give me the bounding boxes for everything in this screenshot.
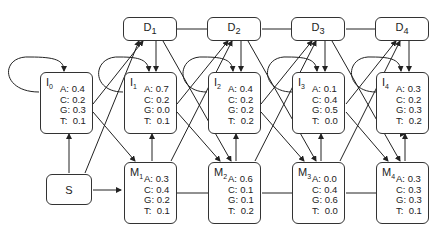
- start-state: S: [46, 174, 92, 205]
- emission-probs: A: 0.3 C: 0.4 G: 0.2 T: 0.1: [144, 174, 170, 216]
- state-label: D1: [143, 21, 156, 36]
- insert-state-i2: I2 A: 0.4 C: 0.2 G: 0.2 T: 0.2: [208, 72, 261, 134]
- match-state-m2: M2 A: 0.6 C: 0.1 G: 0.1 T: 0.2: [208, 162, 261, 224]
- emission-probs: A: 0.4 C: 0.2 G: 0.3 T: 0.1: [60, 84, 86, 126]
- delete-state-d4: D4: [375, 17, 429, 41]
- insert-state-i3: I3 A: 0.1 C: 0.4 G: 0.5 T: 0.0: [292, 72, 345, 134]
- state-label: M4: [382, 166, 395, 180]
- delete-state-d2: D2: [207, 17, 261, 41]
- state-label: D4: [395, 21, 408, 36]
- delete-state-d3: D3: [291, 17, 345, 41]
- delete-state-d1: D1: [123, 17, 177, 41]
- state-label: M3: [298, 166, 311, 180]
- state-label: I2: [214, 76, 221, 90]
- state-label: M1: [130, 166, 143, 180]
- emission-probs: A: 0.1 C: 0.4 G: 0.5 T: 0.0: [312, 84, 338, 126]
- emission-probs: A: 0.3 C: 0.3 G: 0.3 T: 0.1: [396, 174, 422, 216]
- emission-probs: A: 0.6 C: 0.1 G: 0.1 T: 0.2: [228, 174, 254, 216]
- state-label: D2: [227, 21, 240, 36]
- emission-probs: A: 0.0 C: 0.4 G: 0.6 T: 0.0: [312, 174, 338, 216]
- emission-probs: A: 0.3 C: 0.2 G: 0.3 T: 0.2: [396, 84, 422, 126]
- emission-probs: A: 0.7 C: 0.2 G: 0.0 T: 0.1: [144, 84, 170, 126]
- emission-probs: A: 0.4 C: 0.2 G: 0.2 T: 0.2: [228, 84, 254, 126]
- state-label: M2: [214, 166, 227, 180]
- state-label: I1: [130, 76, 137, 90]
- insert-state-i0: I0 A: 0.4 C: 0.2 G: 0.3 T: 0.1: [40, 72, 93, 134]
- match-state-m3: M3 A: 0.0 C: 0.4 G: 0.6 T: 0.0: [292, 162, 345, 224]
- insert-state-i4: I4 A: 0.3 C: 0.2 G: 0.3 T: 0.2: [376, 72, 429, 134]
- state-label: I3: [298, 76, 305, 90]
- state-label: I4: [382, 76, 389, 90]
- state-label: S: [65, 184, 72, 196]
- state-label: D3: [311, 21, 324, 36]
- state-label: I0: [46, 76, 53, 90]
- match-state-m1: M1 A: 0.3 C: 0.4 G: 0.2 T: 0.1: [124, 162, 177, 224]
- match-state-m4: M4 A: 0.3 C: 0.3 G: 0.3 T: 0.1: [376, 162, 429, 224]
- insert-state-i1: I1 A: 0.7 C: 0.2 G: 0.0 T: 0.1: [124, 72, 177, 134]
